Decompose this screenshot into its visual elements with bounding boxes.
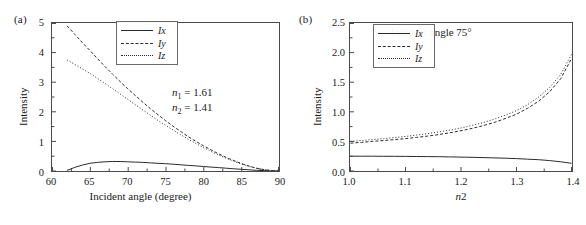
panel-b-xtick-13: 1.3 bbox=[510, 176, 523, 187]
panel-a-xtick-85: 85 bbox=[237, 176, 248, 187]
panel-a-xtick-80: 80 bbox=[198, 176, 209, 187]
panel-b-legend-label-Ix: Ix bbox=[415, 29, 423, 39]
panel-a-xtick-65: 65 bbox=[84, 176, 95, 187]
panel-a-xtick-75: 75 bbox=[160, 176, 171, 187]
solid-line-icon bbox=[378, 33, 410, 35]
panel-a-x-axis-label: Incident angle (degree) bbox=[26, 190, 255, 202]
panel-a-ytick-0: 0 bbox=[22, 167, 44, 178]
panel-a-legend: Ix Iy Iz bbox=[116, 21, 178, 65]
panel-b-legend: Ix Iy Iz bbox=[373, 24, 435, 68]
panel-b-xtick-11: 1.1 bbox=[398, 176, 411, 187]
panel-a-ytick-3: 3 bbox=[22, 77, 44, 88]
panel-b-xtick-10: 1.0 bbox=[342, 176, 355, 187]
panel-b-series-Ix bbox=[351, 156, 572, 163]
figure-container: (a) Intensity Incident angle (degree) 0 … bbox=[0, 0, 586, 225]
panel-a-annotation-n1: n1 = 1.61 bbox=[172, 86, 212, 101]
solid-line-icon bbox=[121, 30, 153, 32]
panel-a-legend-label-Ix: Ix bbox=[158, 26, 166, 36]
panel-b-ytick-20: 2.0 bbox=[315, 47, 345, 58]
panel-b-xtick-12: 1.2 bbox=[454, 176, 467, 187]
panel-a-n2-value: = 1.41 bbox=[182, 101, 213, 113]
panel-b-xtick-14: 1.4 bbox=[566, 176, 579, 187]
panel-b-legend-label-Iz: Iz bbox=[415, 54, 422, 64]
panel-a-ytick-2: 2 bbox=[22, 107, 44, 118]
panel-b-ytick-05: 0.5 bbox=[315, 137, 345, 148]
panel-b-ytick-15: 1.5 bbox=[315, 77, 345, 88]
panel-a-xtick-60: 60 bbox=[46, 176, 57, 187]
panel-a-series-Ix bbox=[67, 162, 278, 172]
panel-b-x-axis-subscript: 2 bbox=[461, 190, 467, 202]
panel-b-series-Iy bbox=[351, 59, 572, 144]
panel-a-legend-item-Iy: Iy bbox=[121, 38, 173, 51]
panel-a-n1-value: = 1.61 bbox=[182, 86, 213, 98]
panel-a-ytick-5: 5 bbox=[22, 17, 44, 28]
panel-b-ytick-0: 0.0 bbox=[315, 167, 345, 178]
panel-b-legend-item-Ix: Ix bbox=[378, 28, 430, 41]
dashed-line-icon bbox=[121, 43, 153, 45]
panel-b-tag: (b) bbox=[299, 13, 312, 25]
panel-a-ytick-1: 1 bbox=[22, 137, 44, 148]
dashed-line-icon bbox=[378, 46, 410, 48]
panel-a-legend-label-Iy: Iy bbox=[158, 39, 166, 49]
panel-a-ytick-4: 4 bbox=[22, 47, 44, 58]
dotted-line-icon bbox=[378, 58, 410, 60]
panel-b-x-axis-label: n2 bbox=[349, 190, 573, 202]
dotted-line-icon bbox=[121, 55, 153, 57]
panel-b-ytick-10: 1.0 bbox=[315, 107, 345, 118]
panel-b-legend-label-Iy: Iy bbox=[415, 42, 423, 52]
panel-b: (b) Intensity n2 0.0 0.5 1.0 1.5 2.0 2.5… bbox=[293, 0, 586, 225]
panel-a-legend-item-Ix: Ix bbox=[121, 25, 173, 38]
panel-a-xtick-90: 90 bbox=[275, 176, 286, 187]
panel-a-annotation-n2: n2 = 1.41 bbox=[172, 101, 212, 116]
panel-a-legend-label-Iz: Iz bbox=[158, 51, 165, 61]
panel-a-xtick-70: 70 bbox=[122, 176, 133, 187]
panel-a-legend-item-Iz: Iz bbox=[121, 50, 173, 63]
panel-a: (a) Intensity Incident angle (degree) 0 … bbox=[0, 0, 293, 225]
panel-b-legend-item-Iy: Iy bbox=[378, 41, 430, 54]
panel-b-legend-item-Iz: Iz bbox=[378, 53, 430, 66]
panel-b-ytick-25: 2.5 bbox=[315, 17, 345, 28]
